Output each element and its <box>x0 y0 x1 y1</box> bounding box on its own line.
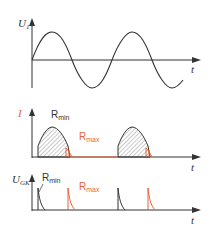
current-x-arrow-icon <box>192 154 201 160</box>
gate-x-arrow-icon <box>192 207 201 213</box>
gate-rmax-label: Rmax <box>79 181 100 193</box>
voltage-y-arrow-icon <box>29 18 35 26</box>
voltage-x-label: t <box>191 63 195 75</box>
current-x-label: t <box>191 161 195 173</box>
current-pulse-rmin-1 <box>38 127 70 157</box>
gate-voltage-panel: UGK t Rmin Rmax <box>12 172 201 226</box>
gate-rmin-label: Rmin <box>42 172 61 184</box>
gate-y-label: UGK <box>12 173 30 187</box>
gate-pulse-rmax-2 <box>148 188 155 210</box>
gate-pulse-rmax-1 <box>68 188 75 210</box>
current-panel: I t Rmin Rmax <box>17 107 201 173</box>
thyristor-phase-control-diagram: U1 t I t Rmin Rmax UGK t Rmin <box>0 0 210 231</box>
gate-y-arrow-icon <box>29 174 35 182</box>
gate-rmin-leader <box>39 184 43 192</box>
voltage-panel: U1 t <box>18 17 201 88</box>
current-rmax-label: Rmax <box>79 131 100 143</box>
voltage-y-label: U1 <box>18 17 29 31</box>
gate-x-label: t <box>191 214 195 226</box>
current-y-arrow-icon <box>29 108 35 116</box>
current-rmin-label: Rmin <box>51 109 70 121</box>
current-pulse-rmin-2 <box>118 127 150 157</box>
current-y-label: I <box>17 107 23 119</box>
gate-pulse-rmin-2 <box>118 188 125 210</box>
